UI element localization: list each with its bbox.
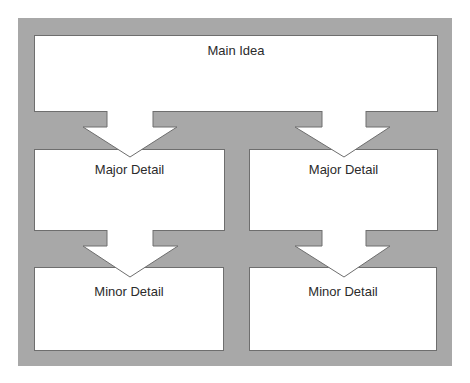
arrow-down-icon — [83, 110, 177, 157]
arrow-down-icon — [295, 110, 390, 157]
arrow-down-icon — [83, 229, 178, 277]
arrow-down-icon — [295, 229, 390, 277]
arrow-connectors — [0, 0, 470, 383]
